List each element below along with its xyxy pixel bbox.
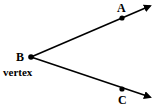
- ray-bc: [31, 57, 150, 97]
- point-c: [119, 86, 124, 91]
- label-c: C: [118, 93, 127, 105]
- point-a: [119, 15, 124, 20]
- label-vertex: vertex: [3, 66, 33, 78]
- ray-ba: [31, 6, 150, 57]
- label-b: B: [16, 50, 24, 64]
- label-a: A: [117, 1, 126, 15]
- angle-diagram: B vertex A C: [0, 0, 160, 105]
- vertex-point-b: [28, 54, 34, 60]
